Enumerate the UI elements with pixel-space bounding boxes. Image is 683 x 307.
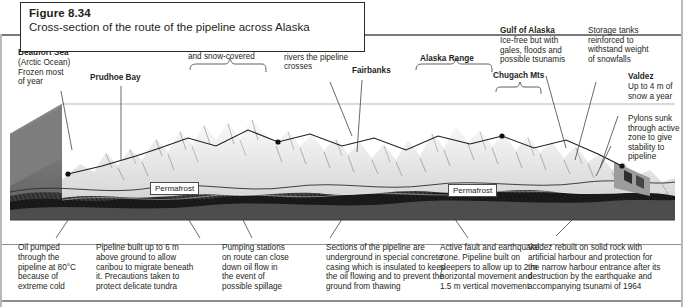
label-chugach-mts: Chugach Mts [493,71,563,81]
label-storage-tanks: Storage tanks reinforced to withstand we… [588,26,666,64]
note-elevated-pipeline: Pipeline built up to 6 m above ground to… [96,243,214,292]
label-beaufort-sea-body: (Arctic Ocean) Frozen most of year [18,58,88,87]
label-valdez: Valdez Up to 4 m of snow a year [628,72,680,101]
label-valdez-title: Valdez [628,72,680,82]
map-tag-permafrost-left: Permafrost [150,182,199,195]
label-prudhoe-bay-title: Prudhoe Bay [90,73,160,83]
figure-caption-box: Figure 8.34 Cross-section of the route o… [20,2,365,52]
label-storage-tanks-body: Storage tanks reinforced to withstand we… [588,26,666,64]
frame-border-bottom [2,300,681,302]
label-prudhoe-bay: Prudhoe Bay [90,73,160,83]
note-valdez-rebuilt: Valdez rebuilt on solid rock with artifi… [528,243,678,292]
label-alaska-range-title: Alaska Range [420,54,500,64]
label-valdez-body: Up to 4 m of snow a year [628,82,680,101]
label-fairbanks: Fairbanks [352,66,412,76]
figure-caption-text: Cross-section of the route of the pipeli… [29,20,356,34]
label-fairbanks-title: Fairbanks [352,66,412,76]
map-tag-permafrost-right: Permafrost [448,184,497,197]
frame-border-left [0,34,2,307]
figure-page: Figure 8.34 Cross-section of the route o… [0,0,683,307]
label-gulf-of-alaska-title: Gulf of Alaska [500,26,578,36]
label-gulf-of-alaska: Gulf of Alaska Ice-free but with gales, … [500,26,578,65]
label-pylons-body: Pylons sunk through active zone to give … [628,114,680,162]
label-beaufort-sea: Beaufort Sea (Arctic Ocean) Frozen most … [18,48,88,87]
cross-section-illustration [10,100,675,240]
label-alaska-range: Alaska Range [420,54,500,64]
note-pumping-stations: Pumping stations on route can close down… [222,243,318,292]
note-oil-temperature: Oil pumped through the pipeline at 80°C … [18,243,90,292]
figure-number: Figure 8.34 [29,6,356,20]
label-gulf-of-alaska-body: Ice-free but with gales, floods and poss… [500,36,578,65]
label-pylons: Pylons sunk through active zone to give … [628,114,680,162]
label-chugach-mts-title: Chugach Mts [493,71,563,81]
